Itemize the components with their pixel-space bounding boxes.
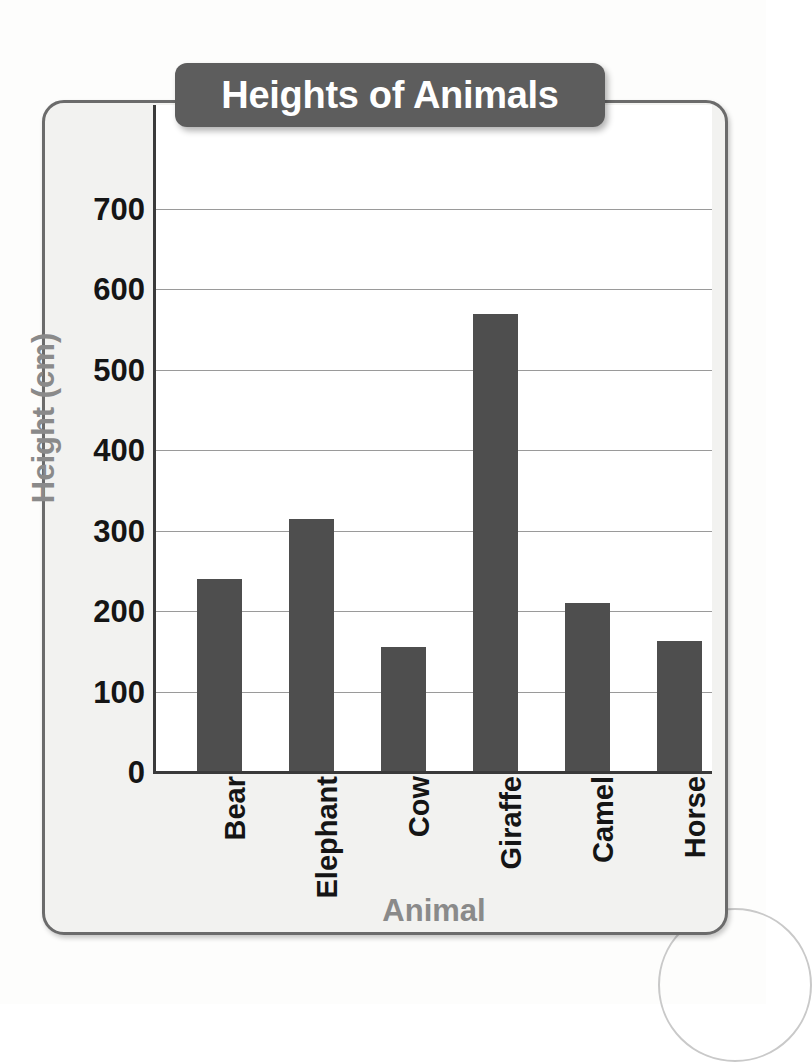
bar-cow	[381, 647, 426, 772]
x-tick-label: Giraffe	[495, 776, 528, 906]
y-tick-label: 300	[93, 515, 145, 546]
y-tick-label: 700	[93, 194, 145, 225]
x-tick-label: Elephant	[311, 776, 344, 906]
y-axis-line	[153, 105, 156, 773]
chart-title: Heights of Animals	[221, 74, 558, 117]
bar-series	[156, 209, 712, 772]
x-axis-title: Animal	[156, 893, 712, 929]
x-tick-label: Horse	[679, 776, 712, 906]
y-tick-label: 400	[93, 435, 145, 466]
bar-elephant	[289, 519, 334, 772]
y-axis-ticks: 700 600 500 400 300 200 100 0	[60, 0, 145, 1004]
x-axis-line	[153, 771, 712, 774]
x-axis-ticks: Bear Elephant Cow Giraffe Camel Horse	[156, 776, 712, 906]
bar-horse	[657, 641, 702, 772]
y-tick-label: 0	[128, 757, 145, 788]
x-tick-label: Bear	[219, 776, 252, 906]
y-tick-label: 500	[93, 354, 145, 385]
y-axis-title: Height (cm)	[26, 288, 62, 548]
y-tick-label: 100	[93, 676, 145, 707]
bar-camel	[565, 603, 610, 772]
y-tick-label: 200	[93, 596, 145, 627]
x-tick-label: Cow	[403, 776, 436, 906]
y-tick-label: 600	[93, 274, 145, 305]
bar-bear	[197, 579, 242, 772]
bar-giraffe	[473, 314, 518, 773]
x-tick-label: Camel	[587, 776, 620, 906]
chart-title-banner: Heights of Animals	[175, 63, 605, 127]
